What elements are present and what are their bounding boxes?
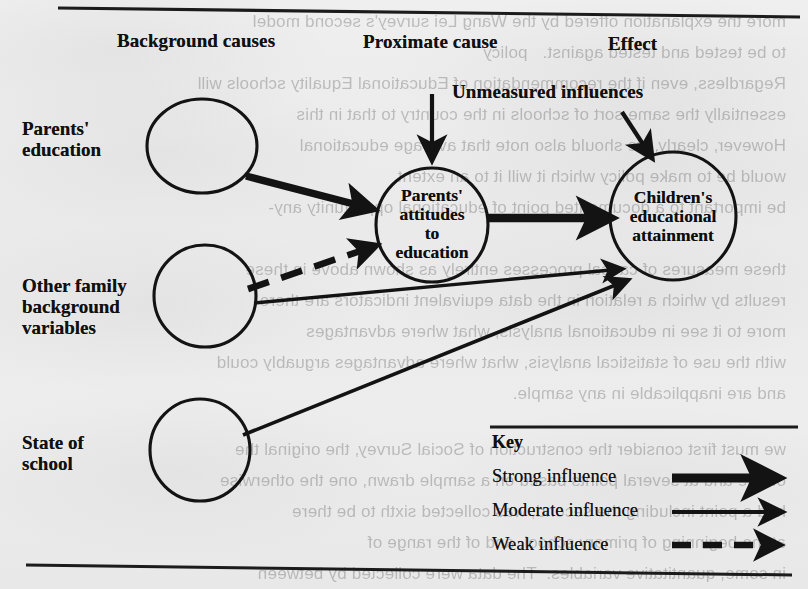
node-label-line: Parents'	[372, 186, 492, 205]
row-label-line: education	[22, 139, 101, 160]
row-label-other-family-background: Other family background variables	[22, 275, 127, 338]
row-label-line: school	[22, 453, 84, 474]
edge-other-family-to-attitudes	[248, 246, 375, 289]
legend-label-strong: Strong influence	[492, 466, 616, 487]
node-label-line: educational	[606, 207, 740, 226]
diagram-page: more the explanation offered by the Wang…	[0, 0, 808, 589]
row-label-line: State of	[22, 432, 84, 453]
edge-unmeasured-to-attainment	[622, 112, 652, 158]
row-label-line: background	[22, 296, 127, 317]
column-header-effect: Effect	[608, 33, 657, 55]
row-label-line: Other family	[22, 275, 127, 296]
row-label-parents-education: Parents' education	[22, 118, 101, 160]
edge-state-of-school-to-attainment	[243, 280, 628, 435]
bottom-rule	[26, 565, 792, 575]
column-header-proximate-cause: Proximate cause	[363, 31, 498, 53]
parents-attitudes-node-label: Parents' attitudes to education	[372, 186, 492, 262]
legend-label-moderate: Moderate influence	[492, 500, 638, 521]
children-attainment-node-label: Children's educational attainment	[606, 188, 740, 245]
node-label-line: education	[372, 243, 492, 262]
top-rule	[58, 8, 800, 17]
state-of-school-node[interactable]	[150, 399, 250, 501]
column-header-background-causes: Background causes	[117, 30, 275, 52]
unmeasured-influences-label: Unmeasured influences	[452, 81, 643, 103]
legend-title: Key	[492, 432, 523, 453]
node-label-line: Children's	[606, 188, 740, 207]
parents-education-node[interactable]	[147, 99, 257, 193]
node-label-line: attitudes	[372, 205, 492, 224]
row-label-line: variables	[22, 317, 127, 338]
row-label-state-of-school: State of school	[22, 432, 84, 474]
other-family-node[interactable]	[154, 245, 256, 347]
node-label-line: to	[372, 224, 492, 243]
edge-parents-education-to-attitudes	[246, 176, 373, 209]
row-label-line: Parents'	[22, 118, 101, 139]
legend-label-weak: Weak influence	[492, 534, 609, 555]
edge-other-family-to-attainment	[254, 269, 622, 303]
node-label-line: attainment	[606, 226, 740, 245]
